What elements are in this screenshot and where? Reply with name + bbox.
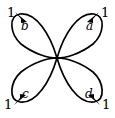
- loop-a-curve: [57, 14, 102, 58]
- edge-weight-d: 1: [102, 98, 110, 111]
- loop-b-curve: [12, 14, 57, 58]
- loop-d-curve: [57, 58, 102, 102]
- loop-c-curve: [12, 58, 57, 102]
- center-vertex: [55, 56, 58, 59]
- edge-weight-a: 1: [101, 6, 109, 19]
- edge-label-b: b: [21, 20, 29, 32]
- graph-canvas: [0, 0, 115, 118]
- edge-label-a: a: [86, 20, 93, 32]
- edge-weight-c: 1: [4, 98, 12, 111]
- edge-label-d: d: [85, 88, 93, 100]
- edge-weight-b: 1: [7, 6, 15, 19]
- graph-figure: a b c d 1 1 1 1: [0, 0, 115, 118]
- edge-label-c: c: [22, 88, 29, 100]
